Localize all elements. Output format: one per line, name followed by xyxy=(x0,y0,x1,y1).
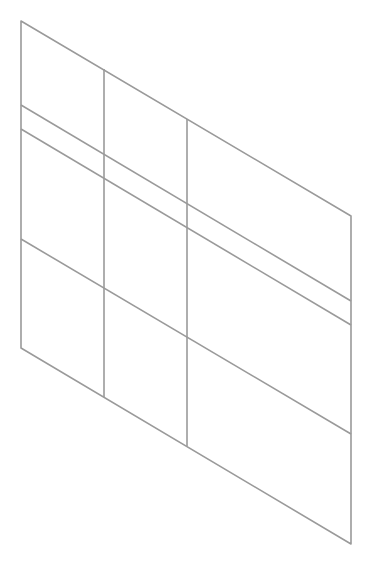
panel-outline xyxy=(21,21,351,544)
horizontal-divider-lines xyxy=(21,105,351,434)
skewed-grid-diagram xyxy=(0,0,366,562)
horizontal-line-2 xyxy=(21,129,351,325)
horizontal-line-1 xyxy=(21,105,351,301)
horizontal-line-3 xyxy=(21,239,351,434)
vertical-divider-lines xyxy=(104,69,187,446)
